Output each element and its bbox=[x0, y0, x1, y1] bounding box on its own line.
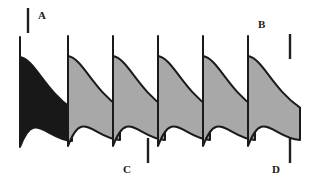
blade-cascade-diagram bbox=[0, 0, 327, 188]
annotation-label-c: C bbox=[123, 164, 131, 175]
annotation-label-a: A bbox=[38, 10, 46, 21]
annotation-label-d: D bbox=[272, 164, 280, 175]
annotation-label-b: B bbox=[258, 19, 266, 30]
figure-root: A B C D bbox=[0, 0, 327, 188]
